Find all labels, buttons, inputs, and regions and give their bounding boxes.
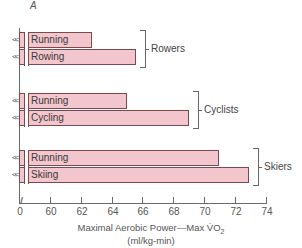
x-tick-label: 70	[199, 206, 210, 217]
group-bracket-tick	[259, 167, 262, 168]
group-label-skiers: Skiers	[264, 161, 292, 172]
x-tick	[173, 197, 174, 203]
x-axis-title-text: Maximal Aerobic Power—Max V̇O	[78, 222, 221, 233]
group-label-rowers: Rowers	[151, 43, 185, 54]
x-tick-label: 64	[107, 206, 118, 217]
x-axis-title: Maximal Aerobic Power—Max V̇O2	[0, 222, 302, 235]
x-tick	[81, 197, 82, 203]
x-axis-title-subscript: 2	[221, 228, 225, 235]
x-tick-label: 72	[230, 206, 241, 217]
zigzag-break-icon: <<	[12, 150, 17, 166]
bar-label: Cycling	[31, 110, 64, 126]
zigzag-break-icon: <<	[12, 167, 17, 183]
x-tick	[235, 197, 236, 203]
x-axis-line	[19, 203, 267, 204]
x-tick	[50, 197, 51, 203]
x-tick-label: 68	[168, 206, 179, 217]
axis-break-icon: //	[20, 196, 21, 206]
zigzag-break-icon: <<	[12, 49, 17, 65]
x-origin-label: 0	[17, 206, 23, 217]
x-tick	[142, 197, 143, 203]
bar-break-icon	[24, 167, 29, 184]
x-tick	[266, 197, 267, 203]
x-tick-label: 62	[76, 206, 87, 217]
group-bracket-tick	[146, 49, 149, 50]
x-tick-label: 74	[261, 206, 272, 217]
bar-break-icon	[24, 150, 29, 167]
group-label-cyclists: Cyclists	[204, 104, 238, 115]
bar-label: Rowing	[31, 49, 64, 65]
bar-break-icon	[24, 93, 29, 110]
x-tick-label: 60	[45, 206, 56, 217]
zigzag-break-icon: <<	[12, 110, 17, 126]
panel-label: A	[30, 0, 37, 11]
zigzag-break-icon: <<	[12, 32, 17, 48]
x-axis-units: (ml/kg-min)	[0, 235, 302, 246]
bar-label: Running	[31, 93, 68, 109]
bar-break-icon	[24, 49, 29, 66]
bar-label: Skiing	[31, 167, 58, 183]
x-tick	[204, 197, 205, 203]
x-tick-label: 66	[137, 206, 148, 217]
bar-break-icon	[24, 110, 29, 127]
x-tick	[112, 197, 113, 203]
bar-break-icon	[24, 32, 29, 49]
bar-label: Running	[31, 150, 68, 166]
group-bracket-tick	[199, 110, 202, 111]
zigzag-break-icon: <<	[12, 93, 17, 109]
bar-label: Running	[31, 32, 68, 48]
